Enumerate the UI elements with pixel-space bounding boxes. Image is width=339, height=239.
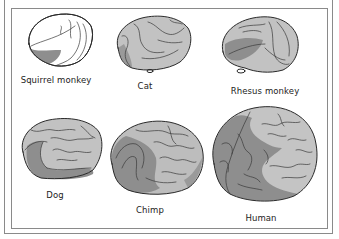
label-dog: Dog <box>46 190 63 200</box>
brain-dog <box>17 116 105 184</box>
brain-chimp <box>106 118 206 198</box>
label-human: Human <box>245 213 276 223</box>
brain-squirrel-monkey <box>25 12 95 72</box>
brain-cat <box>112 14 194 74</box>
label-chimp: Chimp <box>136 205 164 215</box>
brain-human <box>208 104 320 206</box>
brain-rhesus-monkey <box>219 14 301 76</box>
label-squirrel-monkey: Squirrel monkey <box>21 75 92 85</box>
label-rhesus-monkey: Rhesus monkey <box>231 86 300 96</box>
label-cat: Cat <box>138 81 153 91</box>
